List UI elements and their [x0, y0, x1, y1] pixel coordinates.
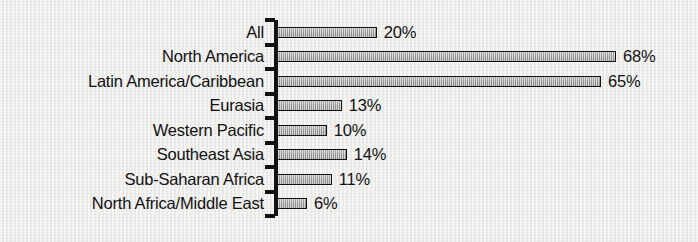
bar: [277, 100, 342, 111]
category-label: Sub-Saharan Africa: [14, 171, 264, 188]
bar: [277, 76, 601, 87]
bar-row: Western Pacific10%: [0, 118, 698, 143]
bar-value-label: 20%: [384, 24, 416, 41]
bar-chart: All20%North America68%Latin America/Cari…: [0, 0, 698, 242]
bar-row: Eurasia13%: [0, 94, 698, 119]
bar-row: North Africa/Middle East6%: [0, 192, 698, 217]
category-label: All: [14, 24, 264, 41]
bar-row: Sub-Saharan Africa11%: [0, 167, 698, 192]
bar-value-label: 6%: [314, 195, 337, 212]
bar: [277, 149, 347, 160]
category-label: North Africa/Middle East: [14, 195, 264, 212]
bar-with-label: 68%: [277, 48, 655, 65]
bar: [277, 174, 332, 185]
bar-with-label: 6%: [277, 195, 337, 212]
bar-with-label: 13%: [277, 97, 381, 114]
bar-with-label: 10%: [277, 122, 366, 139]
bar-value-label: 11%: [339, 171, 370, 188]
category-label: Southeast Asia: [14, 146, 264, 163]
bar-value-label: 13%: [349, 97, 381, 114]
category-label: Western Pacific: [14, 122, 264, 139]
bar-row: Southeast Asia14%: [0, 143, 698, 168]
bar-value-label: 14%: [354, 146, 386, 163]
bar-with-label: 11%: [277, 171, 370, 188]
category-label: Latin America/Caribbean: [14, 73, 264, 90]
bar: [277, 125, 327, 136]
plot-area: All20%North America68%Latin America/Cari…: [0, 0, 698, 242]
bar: [277, 51, 616, 62]
bar-row: North America68%: [0, 45, 698, 70]
bar: [277, 27, 377, 38]
bar-with-label: 20%: [277, 24, 416, 41]
bar-row: All20%: [0, 20, 698, 45]
bar-with-label: 65%: [277, 73, 640, 90]
bar-value-label: 10%: [334, 122, 366, 139]
bar: [277, 198, 307, 209]
bar-value-label: 68%: [623, 48, 655, 65]
bar-with-label: 14%: [277, 146, 386, 163]
category-label: North America: [14, 48, 264, 65]
bar-row: Latin America/Caribbean65%: [0, 69, 698, 94]
bar-value-label: 65%: [608, 73, 640, 90]
category-label: Eurasia: [14, 97, 264, 114]
